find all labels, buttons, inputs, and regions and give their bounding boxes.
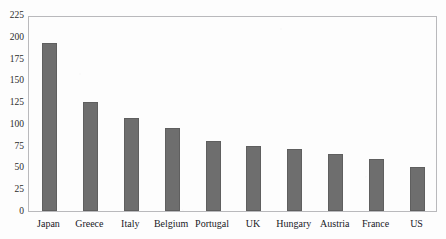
y-tick-label: 75 xyxy=(0,142,24,152)
bar xyxy=(369,159,384,211)
bar xyxy=(124,118,139,211)
bar xyxy=(246,146,261,211)
x-tick-label: Japan xyxy=(37,218,60,230)
bar xyxy=(83,102,98,211)
x-tick-label: Italy xyxy=(121,218,139,230)
x-tick-label: Portugal xyxy=(195,218,229,230)
y-tick-label: 150 xyxy=(0,77,24,87)
y-tick-label: 125 xyxy=(0,98,24,108)
bar-series xyxy=(29,17,436,211)
bar xyxy=(328,154,343,211)
x-tick-label: Greece xyxy=(75,218,103,230)
x-tick-label: Belgium xyxy=(154,218,188,230)
bar xyxy=(206,141,221,211)
plot-area xyxy=(28,16,437,212)
x-tick-label: UK xyxy=(246,218,260,230)
bar xyxy=(287,149,302,211)
x-axis: JapanGreeceItalyBelgiumPortugalUKHungary… xyxy=(28,218,437,234)
y-tick-label: 50 xyxy=(0,164,24,174)
y-tick-label: 175 xyxy=(0,55,24,65)
chart-figure: Gross Public Debt as % of GDP 0255075100… xyxy=(0,0,446,239)
y-tick-label: 200 xyxy=(0,33,24,43)
bar xyxy=(165,128,180,211)
chart-title-cropped: Gross Public Debt as % of GDP xyxy=(28,0,288,2)
bar xyxy=(410,167,425,211)
x-tick-label: Austria xyxy=(320,218,349,230)
y-tick-label: 25 xyxy=(0,185,24,195)
y-axis: 0255075100125150175200225 xyxy=(0,16,24,212)
y-tick-label: 225 xyxy=(0,11,24,21)
y-tick-label: 0 xyxy=(0,207,24,217)
x-tick-label: US xyxy=(410,218,423,230)
x-tick-label: France xyxy=(362,218,389,230)
x-tick-label: Hungary xyxy=(276,218,311,230)
y-tick-label: 100 xyxy=(0,120,24,130)
bar xyxy=(42,43,57,211)
